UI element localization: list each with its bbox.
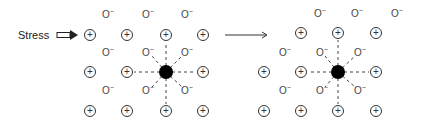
cation-plus-icon: + — [121, 105, 133, 117]
oxygen-anion: O− — [391, 7, 403, 19]
cation-plus-icon: + — [370, 105, 382, 117]
oxygen-anion: O− — [142, 46, 154, 58]
oxygen-anion: O− — [316, 84, 328, 96]
dopant-atom-icon — [331, 65, 345, 79]
cation-plus-icon: + — [121, 66, 133, 78]
oxygen-anion: O− — [351, 7, 363, 19]
oxygen-anion: O− — [279, 84, 291, 96]
cation-plus-icon: + — [295, 27, 307, 39]
cation-plus-icon: + — [160, 105, 172, 117]
oxygen-anion: O− — [102, 84, 114, 96]
cation-plus-icon: + — [197, 66, 209, 78]
cation-plus-icon: + — [84, 29, 96, 41]
cation-plus-icon: + — [295, 105, 307, 117]
oxygen-anion: O− — [102, 46, 114, 58]
transition-arrow-icon — [225, 32, 267, 38]
oxygen-anion: O− — [181, 84, 193, 96]
diagram-lines — [0, 0, 421, 128]
cation-plus-icon: + — [332, 105, 344, 117]
dopant-atom-icon — [159, 65, 173, 79]
cation-plus-icon: + — [295, 66, 307, 78]
cation-plus-icon: + — [258, 105, 270, 117]
oxygen-anion: O− — [142, 8, 154, 20]
cation-plus-icon: + — [197, 105, 209, 117]
oxygen-anion: O− — [354, 84, 366, 96]
cation-plus-icon: + — [84, 66, 96, 78]
oxygen-anion: O− — [142, 84, 154, 96]
stress-arrow-icon — [57, 30, 78, 40]
cation-plus-icon: + — [258, 66, 270, 78]
oxygen-anion: O− — [181, 8, 193, 20]
cation-plus-icon: + — [197, 29, 209, 41]
cation-plus-icon: + — [121, 29, 133, 41]
cation-plus-icon: + — [84, 105, 96, 117]
oxygen-anion: O− — [314, 7, 326, 19]
oxygen-anion: O− — [279, 46, 291, 58]
oxygen-anion: O− — [102, 8, 114, 20]
oxygen-anion: O− — [316, 46, 328, 58]
oxygen-anion: O− — [181, 46, 193, 58]
cation-plus-icon: + — [370, 66, 382, 78]
oxygen-anion: O− — [354, 46, 366, 58]
cation-plus-icon: + — [160, 29, 172, 41]
cation-plus-icon: + — [370, 27, 382, 39]
cation-plus-icon: + — [332, 27, 344, 39]
